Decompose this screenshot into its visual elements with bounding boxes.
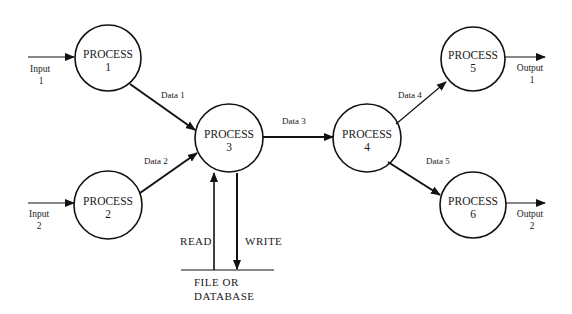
process-5: PROCESS 5 <box>441 27 505 91</box>
flow-data-5: Data 5 <box>388 156 450 195</box>
process-5-number: 5 <box>470 62 476 74</box>
flow-data-4-label: Data 4 <box>398 90 422 100</box>
input-2-label: Input <box>29 209 49 219</box>
flow-data-4: Data 4 <box>396 82 446 124</box>
input-2-number: 2 <box>37 221 42 231</box>
output-2-number: 2 <box>530 221 535 231</box>
flow-data-2: Data 2 <box>140 153 197 193</box>
output-1-number: 1 <box>530 75 535 85</box>
flow-data-5-label: Data 5 <box>426 156 450 166</box>
input-1: Input 1 <box>28 57 74 86</box>
process-3: PROCESS 3 <box>195 104 263 172</box>
flow-data-1: Data 1 <box>130 84 195 130</box>
process-4-number: 4 <box>364 141 370 153</box>
process-1: PROCESS 1 <box>75 25 141 91</box>
flow-data-5-arrow <box>388 162 440 195</box>
flow-write-label: WRITE <box>245 235 282 247</box>
data-flow-diagram: Input 1 Input 2 PROCESS 1 PROCESS 2 PROC… <box>0 0 572 314</box>
data-store-line1: FILE OR <box>194 276 239 288</box>
process-2-number: 2 <box>105 208 111 220</box>
process-5-label: PROCESS <box>448 49 498 61</box>
data-store: FILE OR DATABASE <box>181 270 274 302</box>
output-1: Output 1 <box>505 57 545 85</box>
process-3-label: PROCESS <box>204 128 254 140</box>
process-6-number: 6 <box>470 208 476 220</box>
output-2-label: Output <box>517 209 544 219</box>
process-6: PROCESS 6 <box>440 172 506 238</box>
input-1-label: Input <box>30 64 50 74</box>
process-3-number: 3 <box>226 141 232 153</box>
process-6-label: PROCESS <box>448 195 498 207</box>
process-4-label: PROCESS <box>342 128 392 140</box>
output-1-label: Output <box>517 63 544 73</box>
input-2: Input 2 <box>28 203 74 231</box>
flow-data-2-label: Data 2 <box>144 156 168 166</box>
output-2: Output 2 <box>506 203 545 231</box>
flow-data-3-label: Data 3 <box>282 116 306 126</box>
flow-data-4-arrow <box>396 82 446 124</box>
process-1-number: 1 <box>105 61 111 73</box>
data-store-line2: DATABASE <box>194 290 255 302</box>
flow-read: READ <box>180 173 214 270</box>
flow-data-1-label: Data 1 <box>161 90 185 100</box>
input-1-number: 1 <box>39 76 44 86</box>
process-2-label: PROCESS <box>83 195 133 207</box>
flow-data-3: Data 3 <box>263 116 333 137</box>
flow-write: WRITE <box>237 173 282 269</box>
flow-read-label: READ <box>180 235 212 247</box>
process-2: PROCESS 2 <box>74 171 142 239</box>
process-4: PROCESS 4 <box>333 104 401 172</box>
process-1-label: PROCESS <box>83 48 133 60</box>
